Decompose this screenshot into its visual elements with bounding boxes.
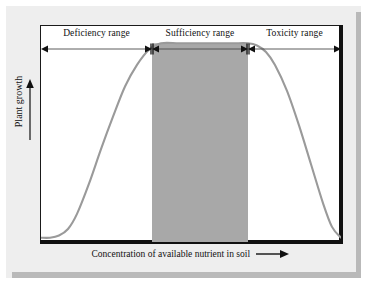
deficiency-range-arrow-icon: [41, 43, 152, 55]
sufficiency-range-arrow-icon: [152, 43, 248, 55]
range-label-deficiency: Deficiency range: [41, 28, 152, 38]
x-axis-title-text: Concentration of available nutrient in s…: [92, 249, 251, 259]
y-axis-up-arrow-icon: [25, 78, 35, 142]
figure-root: Deficiency range Sufficiency range Toxic…: [0, 0, 369, 287]
y-axis-title: Plant growth: [13, 54, 24, 150]
range-label-toxicity: Toxicity range: [248, 28, 341, 38]
toxicity-range-arrow-icon: [248, 43, 341, 55]
page-shadow-right: [356, 12, 361, 278]
x-axis-title: Concentration of available nutrient in s…: [41, 248, 341, 259]
range-segment-deficiency: Deficiency range: [41, 28, 152, 62]
range-bracket-row: Deficiency range Sufficiency range Toxic…: [41, 28, 341, 62]
range-segment-sufficiency: Sufficiency range: [152, 28, 248, 62]
range-segment-toxicity: Toxicity range: [248, 28, 341, 62]
sufficiency-shaded-band: [152, 43, 248, 242]
page-shadow-bottom: [12, 272, 361, 278]
range-label-sufficiency: Sufficiency range: [152, 28, 248, 38]
x-axis-right-arrow-icon: [256, 249, 290, 259]
